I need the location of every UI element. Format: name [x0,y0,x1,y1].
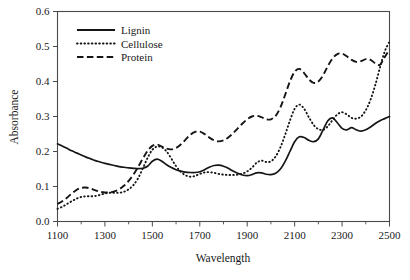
y-tick-label: 0.0 [36,215,50,227]
legend-label-protein: Protein [121,51,153,63]
x-axis-tick-labels: 11001300150017001900210023002500 [47,229,401,241]
series-line-lignin [58,117,390,176]
legend-item-protein: Protein [77,51,153,63]
data-series-group [58,42,390,209]
x-tick-label: 1700 [189,229,212,241]
x-tick-label: 2100 [284,229,307,241]
y-axis-title: Absorbance [8,90,20,145]
x-axis-title: Wavelength [196,252,251,265]
legend-label-lignin: Lignin [121,24,151,36]
y-tick-label: 0.1 [36,180,50,192]
x-tick-label: 1300 [94,229,117,241]
y-tick-label: 0.4 [36,75,50,87]
x-tick-label: 1500 [141,229,164,241]
x-tick-label: 2300 [331,229,354,241]
y-axis-tick-labels: 0.00.10.20.30.40.50.6 [36,5,50,227]
legend-item-cellulose: Cellulose [77,38,163,50]
y-tick-label: 0.6 [36,5,50,17]
legend-item-lignin: Lignin [77,24,151,36]
chart-legend: LigninCelluloseProtein [77,24,163,63]
x-tick-label: 1900 [236,229,259,241]
nir-absorbance-line-chart: 0.00.10.20.30.40.50.6 110013001500170019… [0,0,410,280]
y-tick-label: 0.3 [36,110,50,122]
x-tick-label: 1100 [47,229,69,241]
legend-label-cellulose: Cellulose [121,38,163,50]
x-axis-ticks [58,222,390,227]
y-tick-label: 0.5 [36,40,50,52]
x-tick-label: 2500 [379,229,402,241]
y-axis-ticks [53,12,58,222]
y-tick-label: 0.2 [36,145,50,157]
chart-figure: 0.00.10.20.30.40.50.6 110013001500170019… [0,0,410,280]
